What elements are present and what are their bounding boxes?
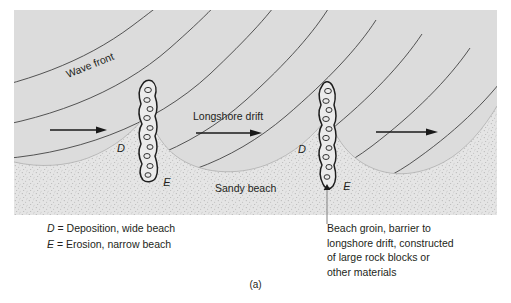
groin-caption-line-3: of large rock blocks or xyxy=(327,250,502,265)
groin-caption-line-4: other materials xyxy=(327,265,502,280)
groin-caption-line-2: longshore drift, constructed xyxy=(327,236,502,251)
diagram-panel: D E xyxy=(14,10,497,215)
figure-part-label: (a) xyxy=(0,279,511,290)
groin-caption-line-1: Beach groin, barrier to xyxy=(327,221,502,236)
legend-symbol-e: E xyxy=(47,238,54,250)
beach-groin-right xyxy=(319,82,336,189)
legend-equals-e: = xyxy=(57,238,63,250)
legend-row-erosion: E = Erosion, narrow beach xyxy=(47,237,175,253)
legend-text-e: Erosion, narrow beach xyxy=(66,238,171,250)
legend-row-deposition: D = Deposition, wide beach xyxy=(47,221,175,237)
label-deposition-left: D xyxy=(117,142,125,154)
label-deposition-right: D xyxy=(298,143,306,155)
groin-caption: Beach groin, barrier to longshore drift,… xyxy=(327,221,502,279)
legend-symbol-d: D xyxy=(47,222,55,234)
figure-coastal-longshore-drift: D E xyxy=(0,0,511,303)
legend-caption: D = Deposition, wide beach E = Erosion, … xyxy=(47,221,175,252)
beach-groin-left xyxy=(139,80,157,181)
label-erosion-right: E xyxy=(343,180,351,192)
label-longshore-drift: Longshore drift xyxy=(193,110,263,122)
label-erosion-left: E xyxy=(163,176,171,188)
legend-text-d: Deposition, wide beach xyxy=(67,222,176,234)
label-sandy-beach: Sandy beach xyxy=(215,182,276,194)
legend-equals-d: = xyxy=(58,222,64,234)
